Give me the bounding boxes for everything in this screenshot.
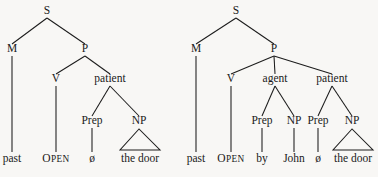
branch-L-S-to-L-P [47,18,85,44]
branch-R-patient-to-R-NP2 [332,86,352,116]
triangle-R-NP2 [333,129,373,150]
node-label-R-P: P [271,42,277,54]
terminal-R-t4: John [283,152,305,164]
node-label-R-agent: agent [263,72,289,85]
tree-svg-canvas: SMPVpatientPrepNPpastOPENøthe doorSMPVag… [0,0,378,177]
branch-R-S-to-R-M [196,18,236,44]
triangle-L-NP [120,129,160,150]
node-label-L-NP: NP [132,114,147,126]
branch-R-S-to-R-P [236,18,274,44]
branch-R-agent-to-R-Prep1 [262,86,275,116]
terminal-L-t3: ø [89,152,95,164]
right-tree-agent-and-patient: SMPVagentpatientPrepNPPrepNPpastOPENbyJo… [187,4,373,165]
terminal-R-t5: ø [315,152,321,164]
branch-L-patient-to-L-Prep [92,86,110,116]
node-label-L-patient: patient [94,72,126,85]
terminal-R-t2: OPEN [217,152,244,164]
node-label-L-V: V [52,72,61,84]
trees-root: SMPVpatientPrepNPpastOPENøthe doorSMPVag… [3,4,373,165]
node-label-L-Prep: Prep [81,114,102,127]
node-label-R-NP1: NP [287,114,302,126]
branch-R-patient-to-R-Prep2 [318,86,332,116]
terminal-R-t1: past [187,152,206,165]
node-label-R-V: V [227,72,236,84]
branch-L-S-to-L-M [12,18,47,44]
node-label-R-Prep1: Prep [251,114,272,127]
branch-L-patient-to-L-NP [110,86,139,116]
tree-diagram-figure: SMPVpatientPrepNPpastOPENøthe doorSMPVag… [0,0,378,177]
branch-L-P-to-L-V [56,56,85,74]
terminal-L-t4: the door [121,152,159,164]
node-label-L-S: S [44,4,50,16]
branch-R-agent-to-R-NP1 [275,86,294,116]
node-label-L-M: M [7,42,17,54]
terminal-L-t2: OPEN [42,152,69,164]
terminal-L-t1: past [3,152,22,165]
node-label-R-S: S [233,4,239,16]
node-label-R-NP2: NP [345,114,360,126]
node-label-L-P: P [82,42,88,54]
node-label-R-Prep2: Prep [307,114,328,127]
terminal-R-t6: the door [334,152,372,164]
node-label-R-patient: patient [316,72,348,85]
node-label-R-M: M [191,42,201,54]
left-tree-patient-only: SMPVpatientPrepNPpastOPENøthe door [3,4,160,165]
terminal-R-t3: by [256,152,268,165]
